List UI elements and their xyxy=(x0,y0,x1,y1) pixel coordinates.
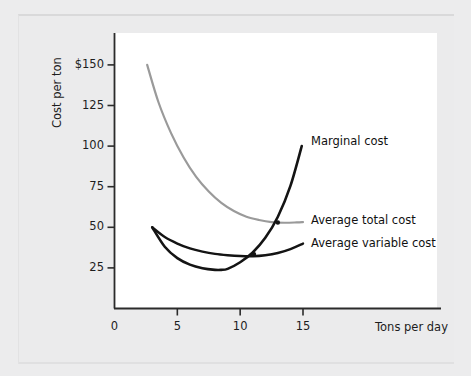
figure-canvas: $150 125 100 75 50 25 0 5 10 15 Cost per… xyxy=(0,0,471,376)
axes-lines xyxy=(114,33,441,309)
curve-label-average-total-cost: Average total cost xyxy=(311,215,416,227)
y-axis-title: Cost per ton xyxy=(52,112,64,128)
curve-label-average-variable-cost: Average variable cost xyxy=(311,238,436,250)
y-tick-label-75: 75 xyxy=(56,181,104,193)
x-tick-label-15: 15 xyxy=(278,321,328,333)
curve-label-marginal-cost: Marginal cost xyxy=(311,136,388,148)
intersection-marker xyxy=(276,220,280,224)
intersection-marker xyxy=(252,252,256,256)
curve-average-total-cost xyxy=(147,65,303,223)
y-tick-label-50: 50 xyxy=(56,221,104,233)
y-tick-label-25: 25 xyxy=(56,262,104,274)
x-tick-label-0: 0 xyxy=(90,321,140,333)
x-axis-title: Tons per day xyxy=(375,322,448,334)
x-tick-label-5: 5 xyxy=(152,321,202,333)
y-tick-label-100: 100 xyxy=(56,140,104,152)
chart-curves xyxy=(147,65,303,270)
y-axis-ticks xyxy=(108,65,115,268)
x-tick-label-10: 10 xyxy=(215,321,265,333)
curve-average-variable-cost xyxy=(152,227,303,256)
x-axis-ticks xyxy=(177,309,303,316)
